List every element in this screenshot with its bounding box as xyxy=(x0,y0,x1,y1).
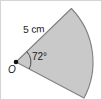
radius-length-label: 5 cm xyxy=(23,24,45,35)
vertex-label-o: O xyxy=(8,65,16,75)
geometry-figure: 5 cm 72° O xyxy=(0,0,102,100)
sector-diagram xyxy=(0,0,102,100)
central-angle-label: 72° xyxy=(32,52,47,62)
